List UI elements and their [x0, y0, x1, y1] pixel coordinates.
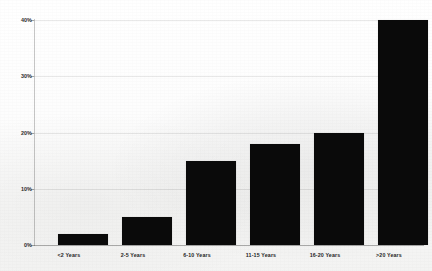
bar-chart: 40% 30% 20% 10% 0% <2 Years 2-5 Years 6-… — [0, 0, 432, 271]
y-tick-label-20: 20% — [2, 130, 32, 136]
y-axis-line — [34, 19, 35, 246]
x-axis-line — [34, 245, 424, 246]
gridline-40 — [34, 20, 424, 21]
gridline-20 — [34, 133, 424, 134]
y-tick-label-10: 10% — [2, 186, 32, 192]
gridline-30 — [34, 76, 424, 77]
bar-2-5-years — [122, 217, 172, 245]
y-axis-labels: 40% 30% 20% 10% 0% — [0, 0, 32, 271]
plot-area — [34, 20, 424, 245]
x-label-11-15-years: 11-15 Years — [226, 252, 296, 258]
y-tickmark-0 — [31, 245, 34, 246]
y-tickmark-40 — [31, 20, 34, 21]
y-tickmark-20 — [31, 133, 34, 134]
y-tick-label-30: 30% — [2, 73, 32, 79]
x-label-gt-20-years: >20 Years — [354, 252, 424, 258]
bar-lt-2-years — [58, 234, 108, 245]
x-label-16-20-years: 16-20 Years — [290, 252, 360, 258]
y-tickmark-10 — [31, 189, 34, 190]
bar-16-20-years — [314, 133, 364, 246]
bar-gt-20-years — [378, 20, 428, 245]
y-tickmark-30 — [31, 76, 34, 77]
bar-11-15-years — [250, 144, 300, 245]
bar-6-10-years — [186, 161, 236, 245]
y-tick-label-40: 40% — [2, 17, 32, 23]
x-label-6-10-years: 6-10 Years — [162, 252, 232, 258]
x-label-2-5-years: 2-5 Years — [98, 252, 168, 258]
y-tick-label-0: 0% — [2, 242, 32, 248]
x-label-lt-2-years: <2 Years — [34, 252, 104, 258]
